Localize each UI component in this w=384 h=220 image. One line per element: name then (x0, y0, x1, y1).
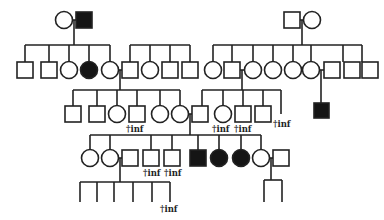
gen3-female (109, 106, 126, 123)
gen1-female (304, 12, 321, 29)
gen2-affected-female (81, 62, 98, 79)
gen3-affected-male (314, 103, 329, 118)
gen4-affected-female (211, 150, 228, 167)
generation-3: †inf †inf †inf †inf (65, 90, 329, 135)
infant-death-label: †inf (160, 204, 179, 214)
generation-2 (17, 45, 378, 103)
gen3-female (152, 106, 169, 123)
gen4-male-spouse (273, 150, 289, 166)
gen4-male (164, 150, 180, 166)
gen2-male (162, 62, 178, 78)
infant-death-label: †inf (143, 168, 162, 178)
gen3-male (129, 106, 145, 122)
gen1-affected-male (76, 12, 92, 28)
gen4-male (143, 150, 159, 166)
infant-death-label: †inf (126, 124, 145, 134)
gen2-female (285, 62, 302, 79)
gen2-female (102, 62, 119, 79)
gen3-male (255, 106, 271, 122)
infant-death-label: †inf (212, 124, 231, 134)
gen4-female (253, 150, 270, 167)
generation-1 (56, 12, 321, 46)
infant-death-label: †inf (273, 119, 292, 129)
gen4-female (82, 150, 99, 167)
infant-death-label: †inf (234, 124, 253, 134)
gen2-male (362, 62, 378, 78)
gen2-female (61, 62, 78, 79)
gen2-male-spouse (324, 62, 340, 78)
gen3-male (235, 106, 251, 122)
gen3-female (215, 106, 232, 123)
gen2-female (303, 62, 320, 79)
gen3-male (89, 106, 105, 122)
gen4-male-spouse (122, 150, 138, 166)
gen2-male (182, 62, 198, 78)
gen2-male (344, 62, 360, 78)
gen4-affected-female (233, 150, 250, 167)
pedigree-chart: †inf †inf †inf †inf †i (0, 0, 384, 220)
gen3-male-spouse (192, 106, 208, 122)
gen2-male (17, 62, 33, 78)
gen2-male (41, 62, 57, 78)
infant-death-label: †inf (164, 168, 183, 178)
gen1-male (284, 12, 300, 28)
gen3-male (65, 106, 81, 122)
gen2-female (142, 62, 159, 79)
gen2-female (265, 62, 282, 79)
gen4-female (102, 150, 119, 167)
gen2-male (224, 62, 240, 78)
gen4-affected-male (190, 150, 206, 166)
gen3-female (172, 106, 189, 123)
generation-4: †inf †inf (82, 135, 290, 182)
gen2-female (205, 62, 222, 79)
gen1-female (56, 12, 73, 29)
gen2-male-spouse (122, 62, 138, 78)
generation-5: †inf (80, 180, 282, 214)
gen2-female (245, 62, 262, 79)
